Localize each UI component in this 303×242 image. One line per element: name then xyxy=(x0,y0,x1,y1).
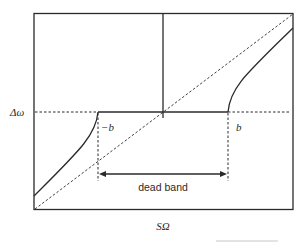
right-response-curve xyxy=(228,28,293,112)
dead-band-label: dead band xyxy=(138,181,188,193)
neg-b-label: −b xyxy=(101,121,114,133)
dead-band-diagram: Δω −b b dead band SΩ xyxy=(0,0,303,242)
arrow-right-head-icon xyxy=(220,171,227,177)
y-axis-label: Δω xyxy=(9,106,24,118)
pos-b-label: b xyxy=(236,121,242,133)
x-axis-label: SΩ xyxy=(156,220,170,232)
left-response-curve xyxy=(34,112,98,196)
arrow-left-head-icon xyxy=(99,171,106,177)
